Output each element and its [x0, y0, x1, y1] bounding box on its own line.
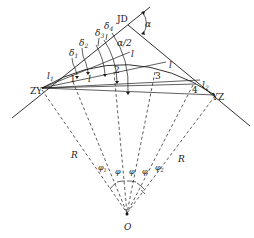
label-phi-c: φ — [142, 167, 148, 176]
radius-line-3 — [127, 72, 155, 213]
label-phi-a: φ — [115, 167, 121, 176]
label-station-1: 1 — [70, 74, 76, 84]
label-phi-2: φ2 — [155, 163, 164, 173]
label-radius-right: R — [177, 154, 185, 164]
delta-1-leader — [72, 58, 73, 64]
radius-line-4 — [127, 85, 193, 213]
label-delta-4: δ4 — [104, 21, 113, 32]
label-zy: ZY — [30, 86, 43, 96]
label-yz: YZ — [211, 92, 224, 102]
phi-arc-b — [127, 181, 136, 182]
right-tangent-line — [128, 25, 250, 126]
label-half-alpha: α/2 — [117, 38, 132, 48]
label-jd: JD — [116, 14, 128, 24]
half-alpha-arrow — [126, 92, 130, 95]
curve-layout-diagram: JD α α/2 ZY YZ O δ1 δ2 δ3 δ4 l1 l2 l l l… — [0, 0, 254, 238]
label-l2: l2 — [202, 80, 209, 91]
label-o: O — [124, 222, 132, 232]
radius-line-2 — [114, 72, 127, 213]
chord-to-point-4 — [42, 84, 196, 88]
radius-line-zy — [42, 90, 127, 213]
delta-3-leader — [98, 38, 99, 46]
label-station-4: 4 — [192, 85, 198, 95]
alpha-arrow-top — [141, 11, 145, 15]
delta-2-leader — [82, 48, 83, 56]
label-l-c: l — [169, 60, 172, 70]
label-delta-1: δ1 — [69, 48, 78, 59]
label-station-3: 3 — [155, 71, 161, 81]
label-phi-1: φ1 — [98, 163, 107, 173]
delta-4-arrow — [115, 81, 119, 84]
label-delta-3: δ3 — [95, 28, 104, 39]
label-l-a: l — [88, 74, 91, 84]
label-l1: l1 — [47, 71, 54, 82]
radius-line-1 — [73, 82, 127, 213]
label-station-2: 2 — [114, 65, 120, 75]
delta-3-arrow — [103, 74, 107, 77]
label-radius-left: R — [70, 150, 78, 160]
phi-arc-c — [137, 183, 144, 189]
phi-1-arc — [110, 183, 116, 189]
label-l-b: l — [131, 49, 134, 59]
label-delta-2: δ2 — [79, 38, 88, 49]
delta-4-leader — [106, 34, 107, 40]
radius-line-yz — [127, 96, 215, 213]
center-point — [126, 213, 129, 216]
circular-curve — [42, 65, 215, 95]
label-alpha: α — [145, 19, 151, 29]
left-tangent-line — [12, 7, 150, 118]
label-phi-b: φ — [129, 167, 135, 176]
chord-to-point-3 — [42, 80, 200, 88]
